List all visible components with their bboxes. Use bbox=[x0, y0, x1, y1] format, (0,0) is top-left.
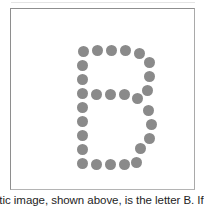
dot-matrix-letter-figure bbox=[11, 9, 196, 191]
letter-dot bbox=[106, 45, 117, 56]
letter-dot bbox=[119, 159, 130, 170]
letter-dot bbox=[119, 89, 130, 100]
top-rule-divider bbox=[11, 2, 195, 3]
letter-dot bbox=[132, 93, 143, 104]
letter-dot bbox=[77, 102, 88, 113]
caption: etic image, shown above, is the letter B… bbox=[0, 193, 204, 209]
letter-dot bbox=[78, 46, 89, 57]
letter-dot bbox=[134, 48, 145, 59]
letter-dot bbox=[77, 74, 88, 85]
caption-text: etic image, shown above, is the letter B… bbox=[0, 193, 204, 207]
letter-dot bbox=[77, 144, 88, 155]
letter-dot bbox=[77, 60, 88, 71]
letter-dot bbox=[143, 105, 154, 116]
letter-dot bbox=[77, 158, 88, 169]
letter-dot bbox=[146, 119, 157, 130]
letter-dot bbox=[144, 71, 155, 82]
letter-dot bbox=[77, 88, 88, 99]
letter-dot bbox=[77, 116, 88, 127]
letter-dot bbox=[105, 89, 116, 100]
letter-dot bbox=[91, 89, 102, 100]
letter-dot bbox=[144, 57, 155, 68]
letter-dot bbox=[142, 85, 153, 96]
letter-dot bbox=[144, 133, 155, 144]
figure-frame bbox=[10, 8, 195, 190]
figure-page: etic image, shown above, is the letter B… bbox=[0, 0, 204, 209]
letter-dot bbox=[131, 157, 142, 168]
letter-dot bbox=[91, 159, 102, 170]
letter-dot bbox=[135, 143, 146, 154]
letter-dot bbox=[120, 45, 131, 56]
letter-dot bbox=[77, 130, 88, 141]
letter-dot bbox=[92, 45, 103, 56]
letter-dot bbox=[105, 159, 116, 170]
